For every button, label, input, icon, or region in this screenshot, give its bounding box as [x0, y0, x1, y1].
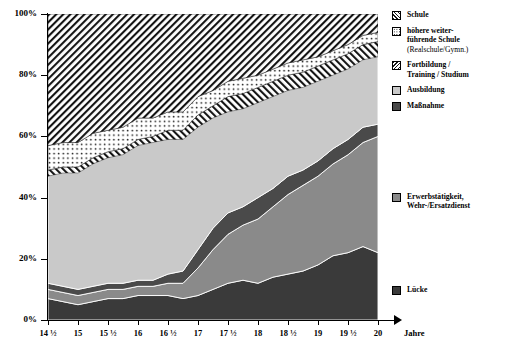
y-tick-label: 100%	[0, 9, 37, 18]
x-axis-arrow-icon	[394, 315, 402, 325]
legend-label-erwerbstaetigkeit: Erwerbstätigkeit, Wehr-/Ersatzdienst	[407, 192, 470, 211]
y-axis-line	[47, 13, 48, 321]
legend-item-luecke[interactable]: Lücke	[392, 285, 509, 295]
legend-item-fortbildung[interactable]: Fortbildung / Training / Studium	[392, 60, 509, 79]
dotted-swatch-icon	[392, 27, 401, 36]
plot-area	[48, 14, 378, 320]
gray-swatch-icon	[392, 193, 401, 202]
y-tick-label: 60%	[0, 131, 37, 140]
legend-middle: Erwerbstätigkeit, Wehr-/Ersatzdienst	[392, 192, 509, 217]
x-axis-title: Jahre	[404, 328, 425, 338]
legend-label-line2: Wehr-/Ersatzdienst	[407, 201, 470, 210]
dark-gray-swatch-icon	[392, 102, 401, 111]
legend-label-schule: Schule	[407, 10, 429, 19]
legend-item-erwerbstaetigkeit[interactable]: Erwerbstätigkeit, Wehr-/Ersatzdienst	[392, 192, 509, 211]
y-tick	[41, 320, 47, 321]
chart-figure: 0%20%40%60%80%100% 14 ½1515 ½1616 ½1717 …	[0, 0, 509, 357]
hatch-swatch-icon	[392, 11, 401, 20]
y-tick	[41, 75, 47, 76]
legend-label-hoehere-schule: höhere weiter- führende Schule (Realschu…	[407, 26, 468, 54]
y-tick-label: 80%	[0, 70, 37, 79]
x-tick	[198, 320, 199, 325]
legend-label-luecke: Lücke	[407, 285, 427, 294]
y-tick-label: 0%	[0, 315, 37, 324]
legend-label-fortbildung: Fortbildung / Training / Studium	[407, 60, 469, 79]
y-tick	[41, 14, 47, 15]
back-hatch-swatch-icon	[392, 61, 401, 70]
legend-item-hoehere-schule[interactable]: höhere weiter- führende Schule (Realschu…	[392, 26, 509, 54]
x-tick	[318, 320, 319, 325]
x-tick	[348, 320, 349, 325]
stacked-area-chart	[48, 14, 378, 320]
legend-label-line1: höhere weiter-	[407, 26, 454, 35]
x-tick	[48, 320, 49, 325]
x-tick-label: 20	[358, 328, 398, 338]
legend-item-massnahme[interactable]: Maßnahme	[392, 101, 509, 111]
x-tick	[258, 320, 259, 325]
legend-label-sub: (Realschule/Gymn.)	[407, 45, 468, 54]
x-tick	[228, 320, 229, 325]
x-axis-line	[47, 320, 396, 321]
legend-lower: Lücke	[392, 285, 509, 301]
legend-label-line1: Fortbildung /	[407, 60, 450, 69]
light-gray-swatch-icon	[392, 86, 401, 95]
y-tick-label: 40%	[0, 193, 37, 202]
legend-item-ausbildung[interactable]: Ausbildung	[392, 85, 509, 95]
y-tick-label: 20%	[0, 254, 37, 263]
x-tick	[168, 320, 169, 325]
x-tick	[108, 320, 109, 325]
x-tick	[78, 320, 79, 325]
x-tick	[378, 320, 379, 325]
y-tick	[41, 198, 47, 199]
y-tick	[41, 136, 47, 137]
legend-label-massnahme: Maßnahme	[407, 101, 444, 110]
x-tick	[288, 320, 289, 325]
legend-item-schule[interactable]: Schule	[392, 10, 509, 20]
legend-label-line2: Training / Studium	[407, 70, 469, 79]
black-swatch-icon	[392, 286, 401, 295]
legend-upper: Schule höhere weiter- führende Schule (R…	[392, 10, 509, 117]
y-tick	[41, 259, 47, 260]
legend-label-ausbildung: Ausbildung	[407, 85, 445, 94]
legend-label-line1: Erwerbstätigkeit,	[407, 192, 464, 201]
x-tick	[138, 320, 139, 325]
legend-label-line2: führende Schule	[407, 35, 460, 44]
